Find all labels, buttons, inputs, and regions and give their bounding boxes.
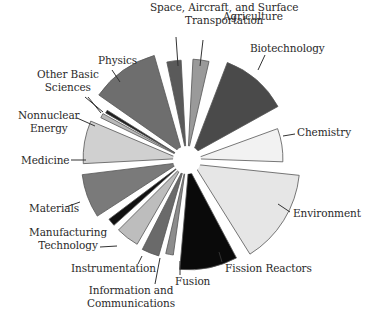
label-materials-text: Materials [29, 202, 79, 214]
label-instrumentation: Instrumentation [71, 262, 156, 275]
label-materials: Materials [29, 202, 79, 215]
label-environment-text: Environment [293, 207, 361, 219]
label-infocomm: Information and Communications [87, 284, 175, 310]
label-manufacturing-line2: Technology [29, 239, 107, 252]
label-infocomm-line2: Communications [87, 297, 175, 310]
label-chemistry: Chemistry [297, 126, 351, 139]
label-otherbasic: Other Basic Sciences [37, 68, 99, 94]
label-biotechnology: Biotechnology [250, 42, 325, 55]
label-otherbasic-line1: Other Basic [37, 68, 99, 81]
label-biotechnology-text: Biotechnology [250, 42, 325, 54]
leader-line [88, 97, 101, 113]
label-environment: Environment [293, 207, 361, 220]
label-manufacturing-line1: Manufacturing [29, 226, 107, 239]
label-fusion-text: Fusion [175, 275, 210, 287]
label-chemistry-text: Chemistry [297, 126, 351, 138]
label-medicine: Medicine [21, 154, 69, 167]
leader-line [258, 55, 265, 70]
label-otherbasic-line2: Sciences [37, 81, 99, 94]
label-physics-text: Physics [98, 54, 137, 66]
label-agriculture: Agriculture [223, 10, 283, 23]
leader-line [283, 134, 295, 136]
label-agriculture-text: Agriculture [223, 10, 283, 22]
label-nonnuclear-line2: Energy [18, 122, 80, 135]
label-fission-text: Fission Reactors [225, 262, 312, 274]
label-instrumentation-text: Instrumentation [71, 262, 156, 274]
pie-chart: Space, Aircraft, and Surface Transportat… [0, 0, 373, 321]
label-nonnuclear-line1: Nonnuclear [18, 109, 80, 122]
label-nonnuclear: Nonnuclear Energy [18, 109, 80, 135]
label-medicine-text: Medicine [21, 154, 69, 166]
label-infocomm-line1: Information and [87, 284, 175, 297]
label-fission: Fission Reactors [225, 262, 312, 275]
label-manufacturing: Manufacturing Technology [29, 226, 107, 252]
label-fusion: Fusion [175, 275, 210, 288]
pie-center [173, 146, 201, 174]
label-physics: Physics [98, 54, 137, 67]
